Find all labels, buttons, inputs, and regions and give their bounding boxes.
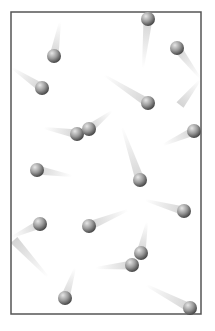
particle	[134, 246, 148, 260]
particle	[170, 41, 184, 55]
particle	[47, 49, 61, 63]
particle	[33, 217, 47, 231]
particle	[35, 81, 49, 95]
particle	[177, 204, 191, 218]
particle	[70, 127, 84, 141]
particle	[30, 163, 44, 177]
particle	[141, 12, 155, 26]
motion-trail	[139, 19, 153, 69]
particle	[82, 219, 96, 233]
particle-diagram	[0, 0, 215, 331]
particle	[183, 301, 197, 315]
motion-trail	[176, 77, 203, 108]
particle	[125, 258, 139, 272]
particles	[30, 12, 201, 315]
particle	[187, 124, 201, 138]
particle	[58, 291, 72, 305]
motion-trail	[11, 237, 52, 280]
particle	[133, 173, 147, 187]
particle	[82, 122, 96, 136]
particle	[141, 96, 155, 110]
